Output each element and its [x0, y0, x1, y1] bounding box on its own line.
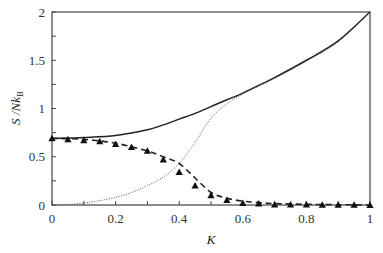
- x-axis-label: K: [206, 232, 217, 247]
- x-tick-label: 0: [49, 211, 56, 226]
- y-axis-label: S /NkB: [8, 91, 25, 125]
- triangle-marker: [112, 141, 119, 147]
- triangle-marker: [176, 169, 183, 175]
- x-tick-label: 1: [367, 211, 374, 226]
- triangle-marker: [207, 192, 214, 198]
- y-tick-label: 0: [39, 198, 46, 213]
- axis-ticks: [52, 12, 370, 205]
- y-axis-label-sub: B: [15, 91, 25, 97]
- triangle-marker: [192, 182, 199, 188]
- entropy-chart: 00.20.40.60.8100.511.52 K S /NkB: [0, 0, 383, 253]
- y-tick-label: 1: [39, 101, 46, 116]
- x-tick-label: 0.8: [298, 211, 314, 226]
- dotted-curve: [52, 12, 370, 205]
- x-tick-label: 0.6: [235, 211, 252, 226]
- plot-border: [52, 12, 370, 205]
- plot-frame: [52, 12, 370, 205]
- triangle-marker: [223, 197, 230, 203]
- y-tick-label: 0.5: [29, 149, 45, 164]
- y-tick-label: 2: [39, 5, 46, 20]
- y-tick-label: 1.5: [29, 53, 45, 68]
- x-tick-label: 0.2: [107, 211, 123, 226]
- y-axis-label-main: S /Nk: [8, 97, 23, 125]
- series-layer: [52, 12, 370, 205]
- x-tick-label: 0.4: [171, 211, 188, 226]
- triangle-markers: [48, 135, 373, 208]
- tick-labels: 00.20.40.60.8100.511.52: [29, 5, 374, 227]
- solid-curve: [52, 12, 370, 138]
